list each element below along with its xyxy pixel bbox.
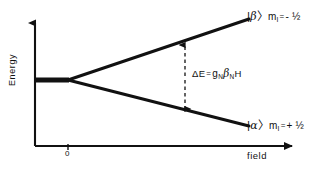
alpha-quantum-number: m xyxy=(269,120,278,131)
y-axis-label: Energy xyxy=(8,54,17,86)
alpha-level-line xyxy=(68,80,249,126)
delta-e-symbol: ΔE xyxy=(192,68,205,79)
alpha-state-label: |α〉mI=+ ½ xyxy=(247,120,304,132)
diagram-canvas xyxy=(0,0,317,171)
x-axis-label: field xyxy=(247,151,267,161)
beta-value: - ½ xyxy=(285,11,300,22)
origin-tick-label: 0 xyxy=(65,150,70,158)
alpha-equals-sign: = xyxy=(280,121,287,130)
alpha-greek-symbol: α xyxy=(250,119,258,132)
delta-e-equation-label: ΔE=gNβNH xyxy=(192,68,242,79)
alpha-value: + ½ xyxy=(287,120,305,131)
alpha-ket-close: 〉 xyxy=(258,119,269,131)
beta-state-label: |β〉mI=- ½ xyxy=(247,11,301,23)
field-strength-symbol: H xyxy=(234,68,241,79)
zeeman-splitting-figure: Energy field 0 |β〉mI=- ½ |α〉mI=+ ½ ΔE=gN… xyxy=(0,0,317,171)
beta-ket-close: 〉 xyxy=(257,10,268,22)
